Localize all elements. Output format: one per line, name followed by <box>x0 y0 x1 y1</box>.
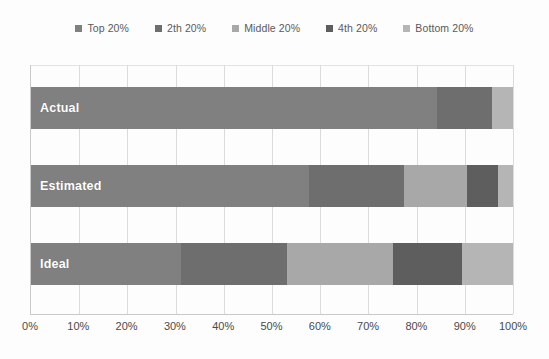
legend-item-label: Middle 20% <box>244 22 300 34</box>
bar-row-actual: Actual <box>31 87 513 129</box>
legend-swatch-icon <box>155 25 162 32</box>
x-axis-tick-label: 90% <box>454 320 476 332</box>
x-axis-tick-label: 80% <box>405 320 427 332</box>
bar-segment[interactable]: Actual <box>31 87 437 129</box>
legend-swatch-icon <box>75 25 82 32</box>
bar-segment[interactable] <box>287 243 393 285</box>
bar-segment[interactable] <box>309 165 404 207</box>
plot-area: Actual Estimated Ideal <box>30 65 513 315</box>
legend-item[interactable]: Bottom 20% <box>403 22 473 34</box>
legend-item-label: 2th 20% <box>167 22 206 34</box>
x-axis-tick-label: 30% <box>164 320 186 332</box>
legend-swatch-icon <box>232 25 239 32</box>
x-axis-tick-label: 40% <box>212 320 234 332</box>
bar-segment[interactable] <box>404 165 467 207</box>
legend-swatch-icon <box>403 25 410 32</box>
x-axis-tick-label: 20% <box>116 320 138 332</box>
legend-swatch-icon <box>326 25 333 32</box>
bar-segment[interactable] <box>498 165 513 207</box>
bar-segment[interactable] <box>393 243 461 285</box>
x-axis-tick-label: 50% <box>260 320 282 332</box>
bar-segment[interactable] <box>437 87 492 129</box>
bar-category-label: Ideal <box>40 257 70 271</box>
bar-row-estimated: Estimated <box>31 165 513 207</box>
x-axis-tick-label: 10% <box>67 320 89 332</box>
legend-item[interactable]: Middle 20% <box>232 22 300 34</box>
x-axis-tick-label: 0% <box>22 320 38 332</box>
legend-item[interactable]: 4th 20% <box>326 22 377 34</box>
bar-segment[interactable]: Estimated <box>31 165 309 207</box>
legend-item-label: 4th 20% <box>338 22 377 34</box>
bar-segment[interactable]: Ideal <box>31 243 181 285</box>
gridline <box>513 65 514 314</box>
bar-segment[interactable] <box>181 243 288 285</box>
bar-segment[interactable] <box>467 165 498 207</box>
bar-segment[interactable] <box>462 243 513 285</box>
x-axis-tick-label: 70% <box>357 320 379 332</box>
x-axis-tick-label: 100% <box>499 320 527 332</box>
bar-category-label: Estimated <box>40 179 102 193</box>
legend-item-label: Top 20% <box>87 22 129 34</box>
legend-item[interactable]: 2th 20% <box>155 22 206 34</box>
chart-legend: Top 20%2th 20%Middle 20%4th 20%Bottom 20… <box>0 22 549 34</box>
stacked-bar-chart: Top 20%2th 20%Middle 20%4th 20%Bottom 20… <box>0 0 549 359</box>
legend-item-label: Bottom 20% <box>415 22 473 34</box>
legend-item[interactable]: Top 20% <box>75 22 129 34</box>
bar-row-ideal: Ideal <box>31 243 513 285</box>
x-axis-labels: 0%10%20%30%40%50%60%70%80%90%100% <box>0 320 549 340</box>
bar-category-label: Actual <box>40 101 79 115</box>
x-axis-tick-label: 60% <box>309 320 331 332</box>
bar-segment[interactable] <box>492 87 513 129</box>
